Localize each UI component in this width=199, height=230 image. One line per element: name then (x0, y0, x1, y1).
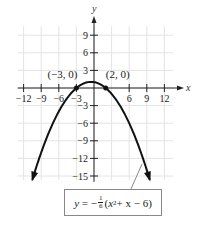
y-tick-label: −6 (77, 118, 88, 129)
x-tick-label: −12 (16, 93, 32, 104)
parabola-curve (32, 82, 149, 180)
y-tick-label: −15 (72, 171, 88, 182)
x-tick-label: 9 (144, 93, 149, 104)
y-tick-label: 6 (83, 47, 88, 58)
intercept-label: (2, 0) (106, 68, 130, 81)
y-axis-label: y (91, 3, 97, 14)
x-tick-label: 12 (159, 93, 169, 104)
intercept-point (103, 86, 108, 91)
x-axis-arrow-icon (177, 86, 184, 91)
eq-y: y (74, 197, 79, 209)
x-tick-label: −6 (53, 93, 64, 104)
eq-rest: + x − 6) (117, 197, 152, 209)
y-tick-label: −12 (72, 153, 88, 164)
eq-fraction: 1 6 (98, 195, 104, 210)
y-tick-label: 3 (83, 65, 88, 76)
x-tick-label: −9 (36, 93, 47, 104)
y-axis-arrow-icon (92, 16, 97, 23)
y-tick-label: −3 (77, 100, 88, 111)
intercept-point (74, 86, 79, 91)
y-tick-label: 9 (83, 30, 88, 41)
x-axis-label: x (185, 82, 191, 93)
x-tick-label: 6 (127, 93, 132, 104)
intercept-label: (−3, 0) (47, 68, 77, 81)
y-tick-label: −9 (77, 135, 88, 146)
equation-label-box: y = − 1 6 (x2 + x − 6) (64, 189, 162, 216)
